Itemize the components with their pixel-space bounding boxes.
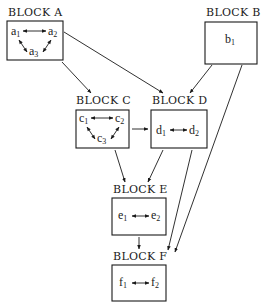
block-c: BLOCK C c1 c2 c3 (76, 94, 131, 148)
node-d1: d1 (156, 123, 166, 138)
block-f-label: BLOCK F (113, 250, 167, 263)
block-c-label: BLOCK C (76, 94, 131, 107)
node-b1: b1 (225, 32, 235, 47)
block-b: BLOCK B b1 (205, 6, 261, 64)
node-a1: a1 (11, 24, 20, 39)
block-a-label: BLOCK A (8, 6, 63, 19)
edge-c2-c3 (111, 127, 119, 139)
edge-a2-a3 (43, 40, 51, 52)
node-c3: c3 (97, 131, 106, 146)
block-diagram: BLOCK A a1 a2 a3 BLOCK B b1 BLOCK C c1 c… (0, 0, 263, 305)
block-b-label: BLOCK B (206, 6, 261, 19)
node-d2: d2 (189, 123, 199, 138)
node-a3: a3 (29, 44, 38, 59)
node-e1: e1 (118, 208, 127, 223)
block-e: BLOCK E e1 e2 (112, 183, 168, 235)
edge-c1-c3 (87, 127, 95, 139)
edge-a-to-c (62, 62, 91, 93)
block-e-label: BLOCK E (113, 183, 168, 196)
edge-a1-a3 (19, 40, 27, 52)
edge-c-to-e (115, 150, 125, 182)
edge-b-to-d (190, 65, 212, 93)
node-f2: f2 (151, 275, 159, 290)
edge-d-to-e (148, 150, 163, 182)
node-c1: c1 (79, 111, 88, 126)
block-d-label: BLOCK D (152, 94, 207, 107)
edge-a-to-d (64, 32, 163, 93)
node-c2: c2 (115, 111, 124, 126)
node-f1: f1 (119, 275, 127, 290)
block-d: BLOCK D d1 d2 (151, 94, 207, 148)
node-e2: e2 (151, 208, 160, 223)
block-a: BLOCK A a1 a2 a3 (7, 6, 63, 60)
node-a2: a2 (48, 24, 57, 39)
edge-d-to-f (168, 150, 192, 250)
block-f: BLOCK F f1 f2 (112, 250, 167, 301)
